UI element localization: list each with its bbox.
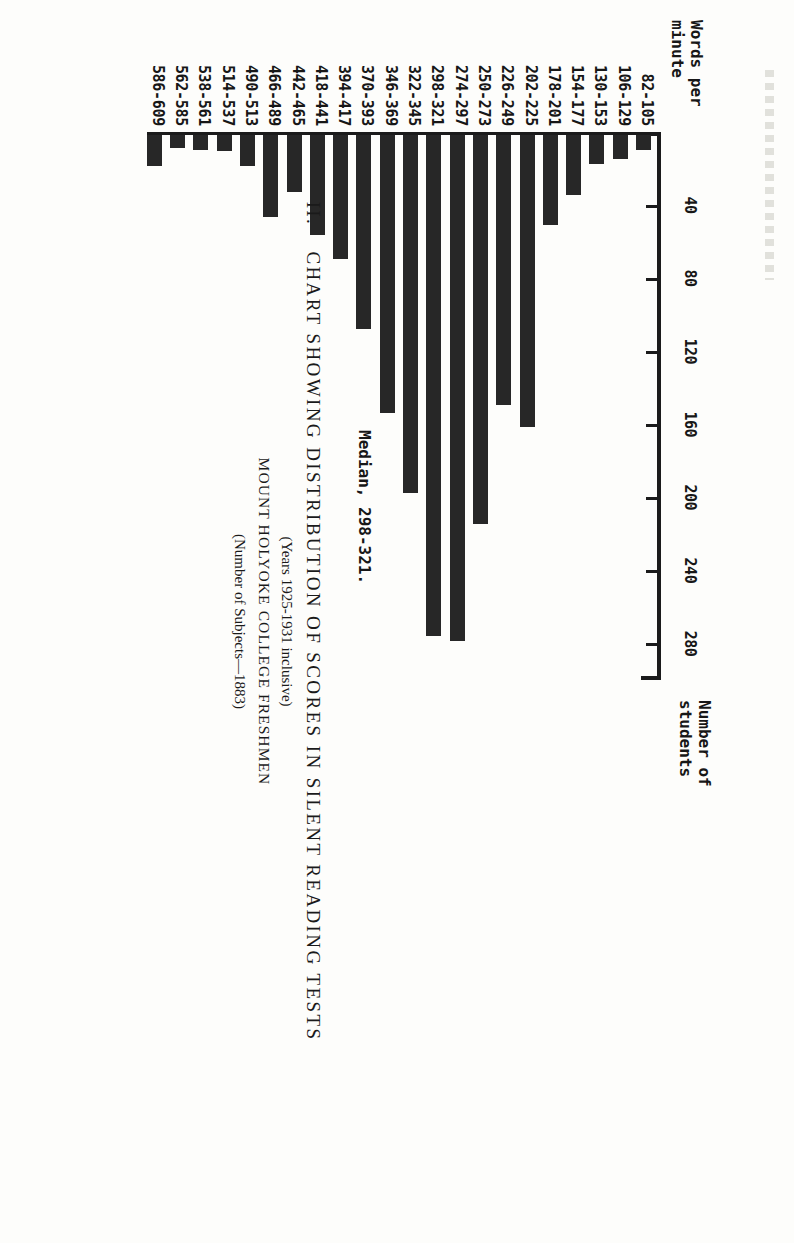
bar [450, 135, 465, 641]
bar-category-label: 394-417 [335, 65, 353, 126]
bar-group: 82-105106-129130-153154-177178-201202-22… [142, 135, 655, 695]
bar [589, 135, 604, 164]
bar [403, 135, 418, 493]
bar-category-label: 106-129 [615, 65, 633, 126]
caption-institution: MOUNT HOLYOKE COLLEGE FRESHMEN [255, 0, 273, 1243]
caption-title: II. CHART SHOWING DISTRIBUTION OF SCORES… [302, 0, 324, 1243]
bar [566, 135, 581, 195]
bar [473, 135, 488, 524]
bar-category-label: 322-345 [405, 65, 423, 126]
axis-tick-label: 80 [681, 270, 699, 287]
bar-category-label: 298-321 [428, 65, 446, 126]
bar-row: 538-561 [189, 135, 212, 695]
bar-row: 394-417 [329, 135, 352, 695]
bar-category-label: 274-297 [452, 65, 470, 126]
caption-block: II. CHART SHOWING DISTRIBUTION OF SCORES… [231, 0, 324, 1243]
bar-category-label: 538-561 [195, 65, 213, 126]
bar [636, 135, 651, 150]
plate-number: II. [303, 202, 324, 227]
category-axis-title: Words per minute [668, 20, 706, 130]
bar-row: 178-201 [539, 135, 562, 695]
bar-category-label: 370-393 [358, 65, 376, 126]
bar-category-label: 346-369 [382, 65, 400, 126]
bar [380, 135, 395, 413]
bar [426, 135, 441, 636]
axis-tick-label: 160 [681, 411, 699, 437]
bar-row: 202-225 [515, 135, 538, 695]
bar-row: 226-249 [492, 135, 515, 695]
bar [193, 135, 208, 150]
axis-tick-label: 120 [681, 338, 699, 364]
bar-row: 562-585 [166, 135, 189, 695]
chart-area: Number of students Words per minute 4080… [0, 0, 794, 1243]
bar-category-label: 130-153 [591, 65, 609, 126]
axis-tick-label: 280 [681, 631, 699, 657]
bar-row: 274-297 [445, 135, 468, 695]
axis-tick-label: 40 [681, 197, 699, 214]
bar-row: 106-129 [608, 135, 631, 695]
caption-subjects: (Number of Subjects—1883) [231, 0, 248, 1243]
bar-category-label: 154-177 [568, 65, 586, 126]
bar-category-label: 562-585 [172, 65, 190, 126]
bar-category-label: 226-249 [498, 65, 516, 126]
axis-tick-label: 240 [681, 558, 699, 584]
chart-plate: Number of students Words per minute 4080… [0, 0, 794, 1243]
bar [496, 135, 511, 405]
bar [170, 135, 185, 148]
median-annotation: Median, 298-321. [355, 430, 374, 584]
bar-row: 82-105 [632, 135, 655, 695]
bar-row: 298-321 [422, 135, 445, 695]
bar-row: 346-369 [375, 135, 398, 695]
value-axis-line [657, 132, 661, 680]
bar-category-label: 178-201 [545, 65, 563, 126]
bar-row: 130-153 [585, 135, 608, 695]
bar [520, 135, 535, 427]
bar-row: 322-345 [399, 135, 422, 695]
bar-category-label: 202-225 [522, 65, 540, 126]
axis-end-cap [641, 676, 661, 680]
axis-tick-label: 200 [681, 485, 699, 511]
bar [333, 135, 348, 259]
bar-row: 250-273 [469, 135, 492, 695]
bar-row: 586-609 [142, 135, 165, 695]
bar-category-label: 586-609 [149, 65, 167, 126]
bar-row: 370-393 [352, 135, 375, 695]
caption-years: (Years 1925-1931 inclusive) [278, 0, 295, 1243]
bar [356, 135, 371, 329]
bar [217, 135, 232, 151]
bar-row: 154-177 [562, 135, 585, 695]
bar [147, 135, 162, 166]
plate-title: CHART SHOWING DISTRIBUTION OF SCORES IN … [303, 251, 324, 1041]
bar [543, 135, 558, 225]
bar [613, 135, 628, 159]
bar-category-label: 250-273 [475, 65, 493, 126]
paper-speckle [765, 70, 774, 280]
value-axis-title: Number of students [676, 700, 714, 787]
bar-category-label: 82-105 [638, 74, 656, 126]
